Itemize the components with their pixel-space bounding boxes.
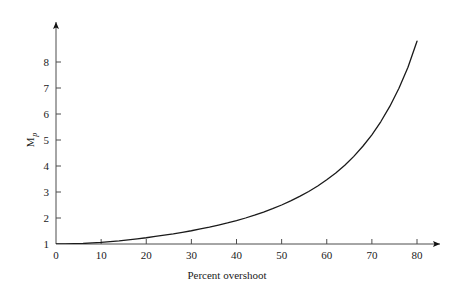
x-tick-label: 0 (53, 249, 59, 261)
x-tick-label: 40 (231, 249, 243, 261)
y-tick-label: 1 (44, 238, 50, 250)
x-tick-label: 50 (276, 249, 288, 261)
y-axis-title-base: Mp (24, 133, 39, 147)
x-tick-label: 80 (412, 249, 424, 261)
x-axis-title: Percent overshoot (187, 269, 266, 281)
y-tick-label: 2 (44, 212, 50, 224)
x-tick-label: 60 (321, 249, 333, 261)
tick-labels-group: 0102030405060708012345678 (44, 56, 424, 261)
resonant-peak-line-chart: 0102030405060708012345678 Percent oversh… (0, 0, 457, 289)
x-tick-label: 70 (366, 249, 378, 261)
axes-group (56, 22, 440, 244)
data-line (56, 41, 417, 244)
y-tick-label: 8 (44, 56, 50, 68)
chart-figure: 0102030405060708012345678 Percent oversh… (0, 0, 457, 289)
y-tick-label: 4 (44, 160, 50, 172)
y-tick-label: 3 (44, 186, 50, 198)
y-tick-label: 5 (44, 134, 50, 146)
data-series-group (56, 41, 417, 244)
y-axis-title: Mp (24, 133, 39, 147)
y-tick-label: 6 (44, 108, 50, 120)
x-tick-label: 30 (186, 249, 198, 261)
y-tick-label: 7 (44, 82, 50, 94)
x-tick-label: 20 (141, 249, 153, 261)
tick-marks-group (56, 62, 417, 244)
x-tick-label: 10 (96, 249, 108, 261)
